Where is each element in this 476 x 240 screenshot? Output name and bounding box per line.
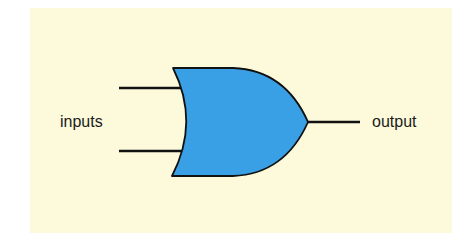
- output-label: output: [372, 113, 417, 130]
- or-gate-diagram: inputs output: [0, 0, 476, 240]
- inputs-label: inputs: [60, 113, 103, 130]
- or-gate-icon: [172, 68, 308, 176]
